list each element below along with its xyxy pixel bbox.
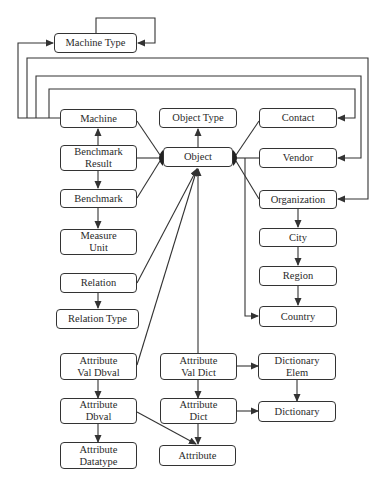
- node-attribute-dict[interactable]: Attribute Dict: [160, 398, 237, 424]
- node-country[interactable]: Country: [259, 306, 337, 327]
- edge-organization-to-object: [236, 161, 259, 199]
- node-city[interactable]: City: [259, 228, 337, 247]
- node-region[interactable]: Region: [259, 266, 337, 286]
- node-relation[interactable]: Relation: [60, 273, 137, 293]
- node-organization[interactable]: Organization: [259, 190, 337, 209]
- node-measure-unit[interactable]: Measure Unit: [60, 229, 137, 255]
- node-attribute-val-dict[interactable]: Attribute Val Dict: [160, 353, 237, 380]
- node-vendor[interactable]: Vendor: [259, 148, 337, 168]
- node-attribute[interactable]: Attribute: [159, 445, 236, 466]
- node-attribute-val-dbval[interactable]: Attribute Val Dbval: [60, 353, 137, 380]
- node-machine-type[interactable]: Machine Type: [54, 33, 137, 53]
- node-contact[interactable]: Contact: [259, 108, 337, 128]
- node-attribute-dbval[interactable]: Attribute Dbval: [60, 398, 137, 424]
- edge-machine-to-object: [137, 121, 160, 155]
- node-benchmark[interactable]: Benchmark: [60, 189, 137, 208]
- edge-contact-to-object: [236, 121, 259, 155]
- node-machine[interactable]: Machine: [60, 109, 137, 128]
- edge-machine-to-machine-type: [18, 43, 60, 118]
- node-dictionary[interactable]: Dictionary: [258, 401, 336, 422]
- er-diagram: Machine Type Machine Object Type Contact…: [0, 0, 385, 485]
- node-relation-type[interactable]: Relation Type: [56, 309, 139, 329]
- node-dictionary-elem[interactable]: Dictionary Elem: [258, 353, 336, 380]
- node-benchmark-result[interactable]: Benchmark Result: [60, 145, 137, 171]
- edge-benchmark-to-object: [137, 161, 160, 198]
- node-object-type[interactable]: Object Type: [159, 108, 237, 128]
- node-attribute-datatype[interactable]: Attribute Datatype: [60, 442, 137, 469]
- node-object[interactable]: Object: [163, 147, 233, 167]
- edge-object-to-country: [245, 158, 258, 316]
- object-right-join-icon: [233, 150, 237, 166]
